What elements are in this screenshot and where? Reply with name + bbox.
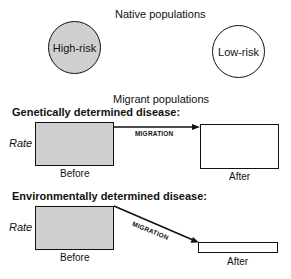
genetic-migration-arrow-icon <box>114 124 200 130</box>
environmental-migration-arrow-icon <box>114 206 199 243</box>
migration-arrows <box>0 0 291 279</box>
